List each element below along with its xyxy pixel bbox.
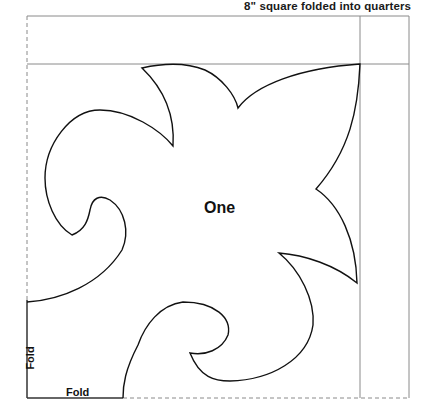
pattern-outline [27,64,360,398]
fold-label-bottom: Fold [66,386,89,398]
piece-label: One [204,199,235,217]
fold-label-left: Fold [24,346,36,369]
